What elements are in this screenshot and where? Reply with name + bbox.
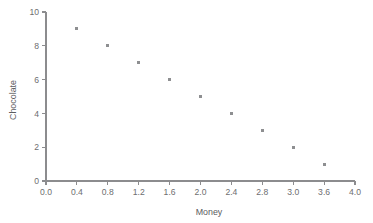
- data-point: [168, 78, 171, 81]
- data-point: [199, 95, 202, 98]
- data-point: [261, 129, 264, 132]
- x-tick-label: 1.6: [164, 187, 176, 197]
- data-point: [292, 146, 295, 149]
- y-tick-label: 10: [29, 7, 39, 17]
- x-tick-label: 0.0: [40, 187, 52, 197]
- data-point: [323, 163, 326, 166]
- chart-figure: 0.00.40.81.21.62.02.42.83.03.64.0 024681…: [0, 0, 373, 223]
- x-tick-label: 2.4: [225, 187, 237, 197]
- x-tick-label: 1.2: [133, 187, 145, 197]
- plot-background: [0, 0, 373, 223]
- x-tick-label: 3.6: [318, 187, 330, 197]
- x-tick-label: 0.4: [71, 187, 83, 197]
- y-tick-label: 0: [34, 176, 39, 186]
- y-tick-label: 2: [34, 142, 39, 152]
- y-axis-title: Chocolate: [8, 80, 18, 120]
- x-tick-label: 4.0: [349, 187, 361, 197]
- data-point: [75, 27, 78, 30]
- data-point: [106, 44, 109, 47]
- data-point: [137, 61, 140, 64]
- data-point: [230, 112, 233, 115]
- x-tick-label: 2.8: [256, 187, 268, 197]
- y-tick-label: 8: [34, 41, 39, 51]
- y-tick-label: 4: [34, 109, 39, 119]
- y-tick-label: 6: [34, 75, 39, 85]
- x-tick-label: 3.0: [287, 187, 299, 197]
- x-tick-label: 0.8: [102, 187, 114, 197]
- x-axis-title: Money: [196, 207, 223, 217]
- scatter-plot: 0.00.40.81.21.62.02.42.83.03.64.0 024681…: [0, 0, 373, 223]
- x-tick-label: 2.0: [195, 187, 207, 197]
